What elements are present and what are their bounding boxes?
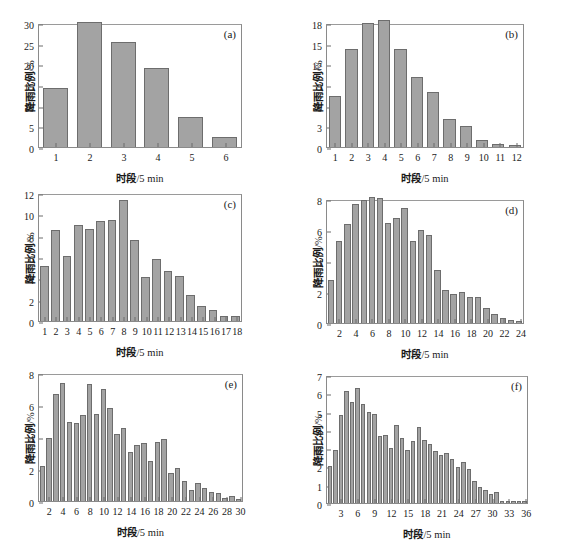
bar-slot (441, 25, 457, 147)
x-axis-tick-mark (434, 143, 435, 147)
y-axis-tick-label: 6 (317, 102, 327, 113)
bar (74, 423, 79, 501)
y-axis-tick-label: 20 (24, 61, 39, 72)
x-axis-title-text: 时段 (117, 526, 137, 538)
bar-slot (522, 377, 528, 503)
y-axis-tick-label: 2 (29, 296, 39, 307)
bar-slot (154, 375, 161, 501)
x-axis-tick-label: 12 (417, 323, 427, 339)
x-axis-tick-label: 33 (504, 503, 514, 519)
bar-slot (53, 375, 60, 501)
x-axis-title-text: 时段 (403, 528, 423, 540)
x-axis-tick-label: 9 (465, 147, 470, 163)
bar (410, 241, 416, 323)
bar-slot (327, 25, 343, 147)
bar (148, 461, 153, 501)
y-axis-tick-label: 1 (317, 481, 327, 492)
bar-slot (376, 25, 392, 147)
y-axis-tick-label: 4 (317, 426, 327, 437)
x-axis-tick-label: 5 (399, 147, 404, 163)
x-axis-title-text: 时段 (116, 346, 136, 358)
x-axis-tick-mark (520, 319, 521, 323)
bar-slot (162, 195, 173, 321)
bar-slot (66, 375, 73, 501)
x-axis-tick-label: 10 (479, 147, 489, 163)
bar-slot (230, 195, 241, 321)
x-axis-unit: /5 min (423, 529, 450, 540)
x-axis-tick-mark (483, 143, 484, 147)
y-axis-tick-label: 5 (29, 123, 39, 134)
x-axis-tick-label: 20 (167, 501, 177, 517)
y-axis-tick-label: 10 (24, 211, 39, 222)
bar (411, 77, 423, 147)
y-axis-tick-label: 0 (317, 500, 327, 511)
bar (130, 240, 139, 321)
chart-panel-f: 降雨比例/%时段/5 min(f)01234567369121518212427… (284, 362, 569, 550)
x-axis-tick-label: 6 (415, 147, 420, 163)
y-axis-tick-mark (327, 505, 331, 506)
x-axis-title-text: 时段 (401, 348, 421, 360)
bar (355, 388, 359, 503)
bar (80, 415, 85, 501)
x-axis-tick-label: 2 (54, 321, 59, 337)
x-axis-tick-mark (374, 499, 375, 503)
bar-slot (235, 375, 242, 501)
x-axis-tick-mark (504, 319, 505, 323)
bar-slot (384, 201, 392, 323)
x-axis-tick-mark (341, 499, 342, 503)
x-axis-tick-label: 9 (133, 321, 138, 337)
bar (329, 96, 341, 147)
x-axis-tick-label: 14 (433, 323, 443, 339)
bar (369, 197, 375, 323)
bar (77, 22, 102, 147)
x-axis-tick-mark (124, 143, 125, 147)
x-axis-tick-mark (135, 317, 136, 321)
bar (46, 438, 51, 501)
x-axis-tick-mark (500, 143, 501, 147)
bar-series (327, 25, 523, 147)
bar (362, 23, 374, 147)
x-axis-tick-mark (185, 497, 186, 501)
x-axis-tick-label: 20 (483, 323, 493, 339)
bar-slot (50, 195, 61, 321)
bar-slot (100, 375, 107, 501)
bar-slot (106, 25, 140, 147)
y-axis-tick-mark (39, 503, 43, 504)
bar (378, 436, 382, 503)
bar-slot (46, 375, 53, 501)
x-axis-tick-label: 7 (432, 147, 437, 163)
y-axis-tick-label: 6 (317, 390, 327, 401)
x-axis-tick-label: 1 (42, 321, 47, 337)
x-axis-tick-mark (405, 319, 406, 323)
x-axis-tick-label: 8 (88, 501, 93, 517)
bar-slot (196, 195, 207, 321)
y-axis-tick-label: 8 (317, 196, 327, 207)
x-axis-tick-mark (226, 317, 227, 321)
bar-slot (360, 25, 376, 147)
bar (186, 295, 195, 321)
bar (418, 230, 424, 323)
x-axis-tick-mark (355, 319, 356, 323)
x-axis-tick-mark (335, 143, 336, 147)
y-axis-tick-label: 2 (29, 466, 39, 477)
bar (344, 391, 348, 503)
x-axis-tick-mark (103, 497, 104, 501)
bar (94, 414, 99, 501)
bar (361, 404, 365, 503)
bar (411, 441, 415, 503)
x-axis-tick-mark (421, 319, 422, 323)
y-axis-tick-label: 3 (317, 123, 327, 134)
bar-slot (222, 375, 229, 501)
bar-slot (73, 195, 84, 321)
x-axis-tick-mark (339, 319, 340, 323)
bar (394, 425, 398, 503)
x-axis-tick-mark (357, 499, 358, 503)
x-axis-tick-label: 10 (400, 323, 410, 339)
x-axis-unit: /5 min (421, 349, 448, 360)
x-axis-title: 时段/5 min (326, 526, 528, 549)
bar (60, 383, 65, 501)
bar-slot (215, 375, 222, 501)
x-axis-tick-label: 6 (370, 323, 375, 339)
x-axis-tick-label: 1 (333, 147, 338, 163)
chart-panel-d: 降雨比例/%时段/5 min(d)02468246810121416182022… (284, 182, 569, 362)
